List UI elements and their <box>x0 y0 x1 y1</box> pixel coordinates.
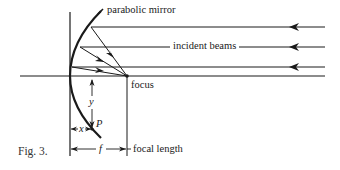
mirror-label-leader <box>98 9 103 14</box>
ray-arrow-icon <box>106 49 114 58</box>
label-focal-length: focal length <box>133 144 183 155</box>
label-f-variable: f <box>99 144 102 155</box>
ray-arrow-icon <box>95 55 104 62</box>
reflected-rays <box>72 27 127 76</box>
label-x-variable: x <box>78 124 85 135</box>
label-y-variable: y <box>88 96 95 109</box>
reflected-ray-1 <box>91 27 127 76</box>
label-focus: focus <box>131 80 154 91</box>
label-parabolic-mirror: parabolic mirror <box>107 5 176 16</box>
point-p <box>90 127 93 130</box>
figure-caption: Fig. 3. <box>18 146 48 158</box>
label-point-p: P <box>96 119 102 130</box>
label-incident-beams: incident beams <box>170 41 239 52</box>
